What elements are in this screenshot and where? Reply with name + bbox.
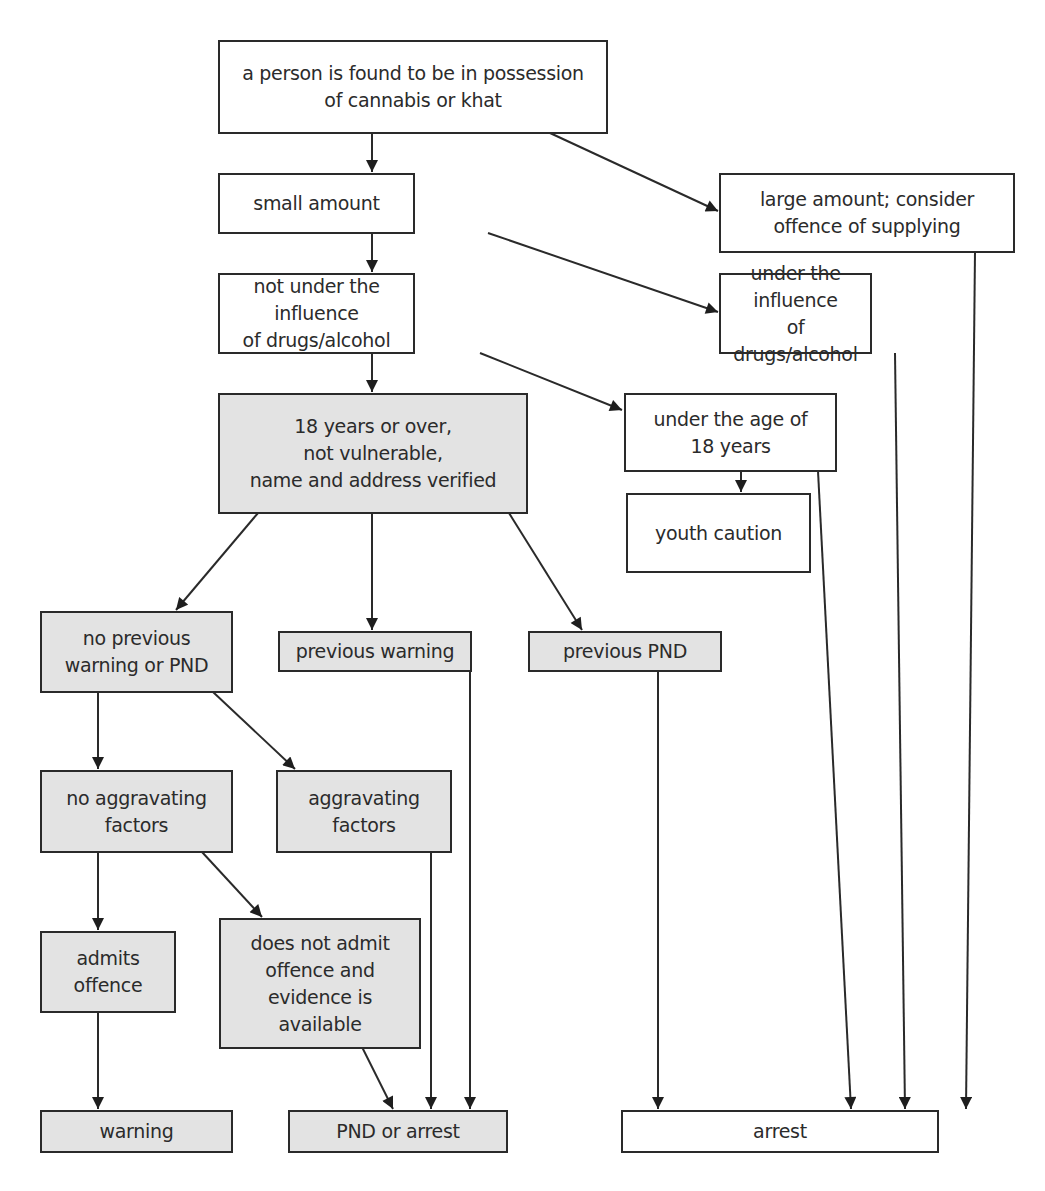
node-youth-caution: youth caution — [626, 493, 811, 573]
arrow-small-under — [488, 233, 718, 312]
arrow-possession-large — [550, 133, 718, 211]
node-small-amount: small amount — [218, 173, 415, 234]
node-no-aggravating: no aggravating factors — [40, 770, 233, 853]
node-under-influence: under the influence of drugs/alcohol — [719, 273, 872, 354]
node-previous-warning: previous warning — [278, 631, 472, 672]
arrow-noprev-aggr — [213, 692, 295, 769]
node-pnd-or-arrest: PND or arrest — [288, 1110, 508, 1153]
node-previous-pnd: previous PND — [528, 631, 722, 672]
node-under-18: under the age of 18 years — [624, 393, 837, 472]
node-pnd-or-arrest-label: PND or arrest — [336, 1118, 459, 1145]
node-aggravating-label: aggravating factors — [308, 785, 420, 839]
arrow-under-arrest — [895, 353, 905, 1109]
node-large-amount-label: large amount; consider offence of supply… — [760, 186, 974, 240]
node-small-amount-label: small amount — [253, 190, 379, 217]
node-does-not-admit: does not admit offence and evidence is a… — [219, 918, 421, 1049]
node-no-aggravating-label: no aggravating factors — [66, 785, 206, 839]
node-admits-offence: admits offence — [40, 931, 176, 1013]
node-previous-pnd-label: previous PND — [563, 638, 687, 665]
node-admits-offence-label: admits offence — [74, 945, 143, 999]
arrow-adult-prevpnd — [509, 513, 582, 630]
node-under-18-label: under the age of 18 years — [654, 406, 808, 460]
node-arrest: arrest — [621, 1110, 939, 1153]
node-youth-caution-label: youth caution — [655, 520, 782, 547]
node-arrest-label: arrest — [753, 1118, 807, 1145]
arrow-notadmit-pnd — [362, 1047, 393, 1109]
node-adult-verified-label: 18 years or over, not vulnerable, name a… — [250, 413, 497, 494]
arrow-under18-arrest — [818, 471, 851, 1109]
node-warning-label: warning — [100, 1118, 174, 1145]
node-no-previous-label: no previous warning or PND — [65, 625, 209, 679]
node-large-amount: large amount; consider offence of supply… — [719, 173, 1015, 253]
node-does-not-admit-label: does not admit offence and evidence is a… — [250, 930, 389, 1038]
node-aggravating: aggravating factors — [276, 770, 452, 853]
node-possession: a person is found to be in possession of… — [218, 40, 608, 134]
node-warning: warning — [40, 1110, 233, 1153]
node-previous-warning-label: previous warning — [296, 638, 455, 665]
node-not-under-influence-label: not under the influence of drugs/alcohol — [226, 273, 407, 354]
node-not-under-influence: not under the influence of drugs/alcohol — [218, 273, 415, 354]
arrow-adult-noprev — [176, 513, 258, 610]
node-under-influence-label: under the influence of drugs/alcohol — [727, 260, 864, 368]
arrow-large-arrest — [966, 252, 975, 1109]
node-possession-label: a person is found to be in possession of… — [242, 60, 584, 114]
node-no-previous: no previous warning or PND — [40, 611, 233, 693]
arrow-noaggr-notadmit — [202, 852, 262, 917]
node-adult-verified: 18 years or over, not vulnerable, name a… — [218, 393, 528, 514]
